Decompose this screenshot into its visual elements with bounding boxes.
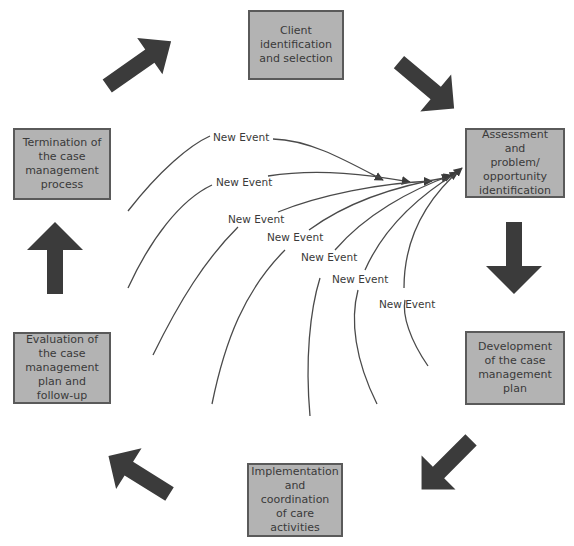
arrow-down-left-icon: [405, 423, 488, 506]
event-label: New Event: [216, 176, 272, 188]
event-curve: [404, 168, 462, 288]
event-label: New Event: [228, 213, 284, 225]
arrow-down-right-icon: [384, 44, 470, 127]
event-curve: [309, 177, 450, 230]
event-curve: [212, 250, 285, 404]
arrow-up-right-icon: [95, 23, 184, 104]
diagram-canvas: New Event New Event New Event New Event …: [0, 0, 574, 546]
event-curve: [153, 227, 238, 355]
event-curve: [354, 290, 377, 404]
event-curve: [308, 278, 320, 416]
event-label: New Event: [213, 131, 269, 143]
event-label: New Event: [379, 298, 435, 310]
event-label: New Event: [332, 273, 388, 285]
event-curve: [365, 172, 458, 270]
event-label: New Event: [267, 231, 323, 243]
arrow-up-icon: [27, 222, 83, 294]
arrow-down-icon: [486, 222, 542, 294]
event-curve: [335, 175, 452, 250]
arrow-up-left-icon: [96, 436, 182, 515]
event-curve: [268, 172, 410, 182]
event-curve: [128, 136, 210, 211]
event-label: New Event: [301, 251, 357, 263]
